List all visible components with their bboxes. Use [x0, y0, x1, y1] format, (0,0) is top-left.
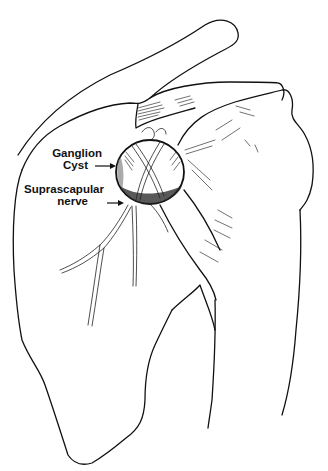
- anatomy-figure: Ganglion Cyst Suprascapular nerve: [0, 0, 328, 471]
- scapula-neck: [172, 285, 215, 330]
- ganglion-cyst-label-line2: Cyst: [40, 159, 88, 171]
- cyst-internal-structures: [125, 128, 180, 201]
- muscle-hatching: [185, 106, 258, 262]
- suprascapular-nerve: [60, 204, 168, 326]
- ganglion-cyst-label: Ganglion Cyst: [40, 147, 102, 171]
- tendon-band: [136, 104, 195, 128]
- suprascapular-nerve-label-line1: Suprascapular: [18, 183, 104, 195]
- suprascapular-nerve-label-line2: nerve: [18, 195, 88, 207]
- scapula-outline: [13, 170, 172, 464]
- infraspinatus-edge: [160, 205, 216, 300]
- cyst-shading: [120, 186, 182, 204]
- acromion-tip: [150, 82, 284, 100]
- suprascapular-nerve-arrow: [107, 200, 124, 206]
- humerus-right-edge: [282, 210, 301, 415]
- suprascapular-nerve-label: Suprascapular nerve: [18, 183, 104, 207]
- ganglion-cyst-label-line1: Ganglion: [40, 147, 102, 159]
- shoulder-drawing: [0, 0, 328, 471]
- posterior-deltoid-line: [184, 190, 220, 250]
